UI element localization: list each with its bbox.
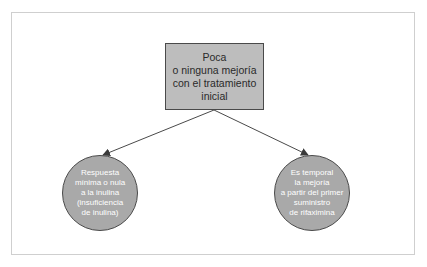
child-node-line: Respuesta [81, 168, 119, 178]
root-node-line: con el tratamiento [173, 77, 256, 90]
child-node-line: (insuficiencia [77, 198, 123, 208]
connector-lines [0, 0, 427, 267]
root-node-box: Poca o ninguna mejoría con el tratamient… [165, 43, 264, 110]
child-node-line: a partir del primer [281, 188, 344, 198]
child-node-inulina: Respuesta mínima o nula a la inulina (in… [62, 155, 138, 231]
child-node-rifaximina: Es temporal la mejoría a partir del prim… [274, 155, 350, 231]
child-node-line: de rifaximina [289, 208, 334, 218]
diagram-canvas: Poca o ninguna mejoría con el tratamient… [0, 0, 427, 267]
child-node-line: Es temporal [291, 168, 334, 178]
child-node-line: a la inulina [81, 188, 119, 198]
root-node-line: Poca [203, 51, 227, 64]
child-node-line: suministro [294, 198, 330, 208]
child-node-line: la mejoría [294, 178, 329, 188]
edge-root-to-left [103, 110, 214, 155]
child-node-line: mínima o nula [75, 178, 125, 188]
child-node-line: de inulina) [82, 208, 119, 218]
root-node-line: o ninguna mejoría [172, 64, 256, 77]
root-node-line: inicial [201, 90, 227, 103]
edge-root-to-right [214, 110, 308, 155]
